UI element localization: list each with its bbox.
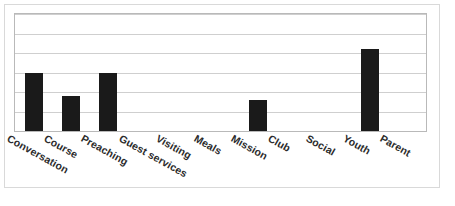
plot-area: [14, 13, 427, 132]
x-axis-label: Meals: [192, 132, 224, 157]
x-axis-label: Club: [266, 132, 293, 154]
x-axis-label: Parent: [378, 132, 413, 159]
x-axis-label: Social: [304, 132, 337, 158]
bar: [361, 49, 379, 131]
x-axis-labels: ConversationCoursePreachingGuest service…: [14, 132, 427, 188]
x-axis-label: Youth: [341, 132, 373, 157]
bar: [249, 100, 267, 131]
bar-series: [15, 14, 426, 131]
chart-figure: ConversationCoursePreachingGuest service…: [0, 0, 455, 206]
bar: [62, 96, 80, 131]
bar: [25, 73, 43, 132]
x-axis-label: Mission: [229, 132, 270, 162]
bar: [99, 73, 117, 132]
